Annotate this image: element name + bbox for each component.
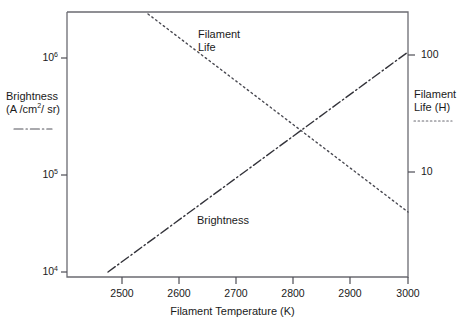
x-tick-2500: 2500 bbox=[98, 287, 146, 300]
y-left-axis-title-line2: (A /cm2/ sr) bbox=[6, 103, 60, 116]
y-left-tick-1e5: 105 bbox=[18, 168, 58, 181]
annotation-filament-life-line1: Filament bbox=[198, 28, 240, 41]
y-right-tick-10: 10 bbox=[421, 165, 433, 178]
y-left-tick-1e4: 104 bbox=[18, 265, 58, 278]
x-tick-2600: 2600 bbox=[155, 287, 203, 300]
x-tick-2800: 2800 bbox=[269, 287, 317, 300]
y-right-axis-title-line2: Life (H) bbox=[414, 101, 456, 114]
annotation-brightness: Brightness bbox=[197, 214, 249, 227]
annotation-filament-life: Filament Life bbox=[198, 28, 240, 54]
y-left-axis-title: Brightness (A /cm2/ sr) bbox=[6, 90, 60, 116]
series-brightness bbox=[108, 52, 408, 272]
y-right-tick-100: 100 bbox=[421, 48, 439, 61]
series-filament-life bbox=[148, 14, 408, 212]
y-right-axis-title-line1: Filament bbox=[414, 88, 456, 101]
y-left-tick-1e6: 106 bbox=[18, 51, 58, 64]
x-axis-title: Filament Temperature (K) bbox=[0, 305, 465, 318]
annotation-filament-life-line2: Life bbox=[198, 41, 240, 54]
x-tick-2900: 2900 bbox=[326, 287, 374, 300]
x-axis-ticks bbox=[122, 277, 408, 284]
y-right-axis-title: Filament Life (H) bbox=[414, 88, 456, 114]
left-axis-ticks bbox=[61, 58, 67, 272]
chart-figure: 106 105 104 Brightness (A /cm2/ sr) 100 … bbox=[0, 0, 465, 326]
x-tick-3000: 3000 bbox=[384, 287, 432, 300]
x-tick-2700: 2700 bbox=[212, 287, 260, 300]
y-left-axis-title-line1: Brightness bbox=[6, 90, 60, 103]
